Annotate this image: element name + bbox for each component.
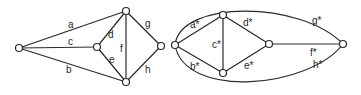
label-d: d bbox=[108, 29, 114, 40]
dual-vertex-bottom bbox=[220, 70, 227, 77]
dual-vertex-middle bbox=[266, 41, 273, 48]
label-e-star: e* bbox=[244, 60, 254, 71]
label-d-star: d* bbox=[243, 17, 253, 28]
dual-vertex-top bbox=[220, 12, 227, 19]
vertex-middle bbox=[94, 44, 101, 51]
edge-c bbox=[19, 47, 97, 48]
label-b-star: b* bbox=[190, 61, 200, 72]
dual-vertex-left bbox=[172, 42, 179, 49]
vertex-right bbox=[158, 43, 165, 50]
label-g: g bbox=[145, 18, 151, 29]
edge-g bbox=[126, 11, 161, 46]
vertex-top bbox=[123, 8, 130, 15]
primal-graph: a b c d e f g h bbox=[16, 8, 165, 86]
label-a: a bbox=[68, 19, 74, 30]
label-f: f bbox=[120, 43, 123, 54]
label-e: e bbox=[109, 54, 115, 65]
label-g-star: g* bbox=[312, 15, 322, 26]
dual-graph: a* b* c* d* e* f* g* h* bbox=[172, 11, 347, 82]
label-h-star: h* bbox=[313, 59, 323, 70]
graph-diagram: a b c d e f g h a* b* c* d* e* f* g* h* bbox=[0, 0, 361, 95]
edge-h bbox=[126, 46, 161, 82]
dual-vertex-right bbox=[340, 41, 347, 48]
label-c-star: c* bbox=[212, 39, 221, 50]
label-h: h bbox=[145, 64, 151, 75]
vertex-bottom bbox=[123, 79, 130, 86]
label-a-star: a* bbox=[190, 19, 200, 30]
label-f-star: f* bbox=[310, 47, 317, 58]
label-c: c bbox=[68, 36, 73, 47]
vertex-left bbox=[16, 45, 23, 52]
label-b: b bbox=[66, 64, 72, 75]
